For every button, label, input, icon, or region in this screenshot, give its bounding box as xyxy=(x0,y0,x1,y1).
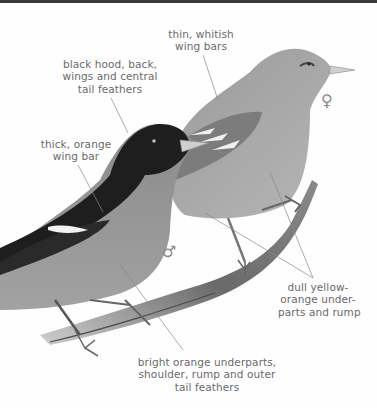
label-male-wing-bar: thick, orange wing bar xyxy=(38,138,114,163)
label-male-underparts: bright orange underparts, shoulder, rump… xyxy=(137,356,277,393)
oriole-illustration xyxy=(0,0,377,408)
label-female-wing-bars: thin, whitish wing bars xyxy=(165,28,237,53)
label-male-hood: black hood, back, wings and central tail… xyxy=(60,58,160,95)
label-female-underparts: dull yellow- orange under- parts and rum… xyxy=(278,281,358,318)
male-symbol-icon: ♂ xyxy=(162,244,176,260)
female-symbol-icon: ♀ xyxy=(321,93,333,109)
female-oriole xyxy=(170,49,355,275)
